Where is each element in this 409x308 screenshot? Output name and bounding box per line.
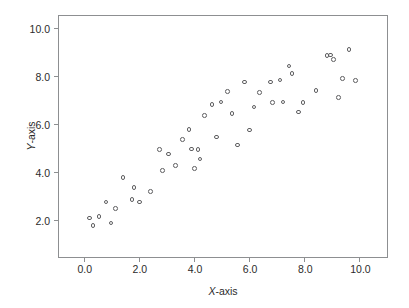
- scatter-point: [198, 157, 203, 162]
- scatter-point: [247, 128, 252, 133]
- scatter-point: [166, 152, 171, 157]
- x-tick-label: 10.0: [350, 263, 370, 275]
- scatter-point: [252, 105, 257, 110]
- scatter-point: [130, 197, 135, 202]
- scatter-point: [270, 100, 275, 105]
- scatter-point: [290, 71, 295, 76]
- scatter-point: [180, 137, 185, 142]
- x-tick-label: 4.0: [188, 263, 203, 275]
- y-axis-title-symbol: Y: [25, 144, 37, 151]
- scatter-point: [173, 163, 178, 168]
- scatter-point: [281, 100, 286, 105]
- scatter-point: [301, 100, 306, 105]
- scatter-point: [287, 64, 292, 69]
- scatter-point: [121, 175, 126, 180]
- x-tick: 10.0: [359, 257, 360, 262]
- plot-frame: 2.04.06.08.010.0 0.02.04.06.08.010.0: [58, 15, 388, 258]
- x-tick: 0.0: [84, 257, 85, 262]
- y-tick-label: 6.0: [35, 119, 50, 131]
- scatter-point: [91, 223, 96, 228]
- scatter-point: [210, 102, 215, 107]
- scatter-point: [331, 57, 336, 62]
- scatter-plot-figure: 2.04.06.08.010.0 0.02.04.06.08.010.0 X-a…: [0, 0, 409, 308]
- x-tick-label: 8.0: [298, 263, 313, 275]
- scatter-point: [137, 200, 142, 205]
- x-tick: 2.0: [139, 257, 140, 262]
- x-tick-label: 6.0: [243, 263, 258, 275]
- scatter-point: [242, 80, 247, 85]
- y-axis-title-suffix: -axis: [25, 121, 37, 143]
- y-tick: 2.0: [54, 220, 59, 221]
- scatter-point: [314, 88, 319, 93]
- y-tick: 8.0: [54, 76, 59, 77]
- scatter-point: [104, 200, 109, 205]
- scatter-point: [340, 76, 345, 81]
- y-axis-title: Y-axis: [25, 121, 37, 150]
- scatter-point: [225, 89, 230, 94]
- scatter-point: [219, 100, 224, 105]
- y-tick-label: 8.0: [35, 71, 50, 83]
- x-tick-label: 2.0: [133, 263, 148, 275]
- scatter-point: [157, 147, 162, 152]
- scatter-point: [353, 78, 358, 83]
- scatter-point: [160, 168, 165, 173]
- scatter-point: [336, 95, 341, 100]
- scatter-point: [189, 147, 194, 152]
- scatter-point: [296, 110, 301, 115]
- x-tick-label: 0.0: [77, 263, 92, 275]
- scatter-point: [132, 185, 137, 190]
- x-tick: 4.0: [194, 257, 195, 262]
- scatter-point: [202, 113, 207, 118]
- plot-data-area: [59, 16, 387, 257]
- scatter-point: [268, 80, 273, 85]
- scatter-point: [187, 127, 192, 132]
- scatter-point: [148, 189, 153, 194]
- scatter-point: [214, 135, 219, 140]
- y-tick: 10.0: [54, 28, 59, 29]
- scatter-point: [347, 47, 352, 52]
- x-tick: 8.0: [304, 257, 305, 262]
- scatter-point: [196, 147, 201, 152]
- y-tick-label: 10.0: [30, 23, 50, 35]
- scatter-point: [87, 216, 92, 221]
- scatter-point: [109, 221, 114, 226]
- scatter-point: [97, 214, 102, 219]
- x-axis-title-suffix: -axis: [215, 285, 237, 297]
- scatter-point: [113, 206, 118, 211]
- scatter-point: [192, 166, 197, 171]
- x-tick: 6.0: [249, 257, 250, 262]
- x-axis-title: X-axis: [58, 285, 388, 297]
- y-tick-label: 2.0: [35, 215, 50, 227]
- scatter-point: [257, 90, 262, 95]
- scatter-point: [230, 111, 235, 116]
- scatter-point: [278, 78, 283, 83]
- scatter-point: [235, 143, 240, 148]
- y-tick: 4.0: [54, 172, 59, 173]
- y-tick-label: 4.0: [35, 167, 50, 179]
- y-tick: 6.0: [54, 124, 59, 125]
